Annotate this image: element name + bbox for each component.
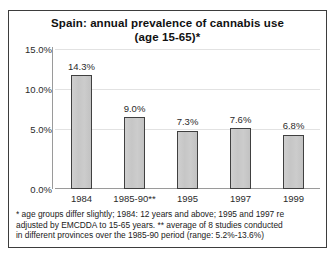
x-tick-label-1984: 1984 [55, 193, 108, 204]
bar-value-label-1999: 6.8% [267, 120, 320, 131]
bar-value-label-1997: 7.6% [214, 114, 267, 125]
bar-slot-1985-90: 9.0% [108, 49, 161, 189]
y-tick-label-0: 0.0% [9, 184, 52, 195]
bar-series: 14.3% 9.0% 7.3% 7.6% 6.8% [55, 49, 320, 189]
y-tick-label-5: 5.0% [9, 124, 52, 135]
chart-figure: Spain: annual prevalence of cannabis use… [8, 10, 327, 248]
x-tick-label-1997: 1997 [214, 193, 267, 204]
y-tick-label-15: 15.0% [9, 44, 52, 55]
bar-1984[interactable] [71, 75, 92, 189]
chart-title: Spain: annual prevalence of cannabis use… [9, 16, 326, 44]
bar-value-label-1985-90: 9.0% [108, 103, 161, 114]
bar-slot-1997: 7.6% [214, 49, 267, 189]
footnote-line-1: * age groups differ slightly; 1984: 12 y… [16, 209, 320, 220]
x-tick-label-1985-90: 1985-90** [108, 193, 161, 204]
x-tick-label-1995: 1995 [161, 193, 214, 204]
x-axis-tick-labels: 1984 1985-90** 1995 1997 1999 [55, 193, 320, 204]
bar-1995[interactable] [177, 131, 198, 189]
bar-slot-1984: 14.3% [55, 49, 108, 189]
bar-1997[interactable] [230, 128, 251, 189]
y-axis-tick-labels: 15.0% 10.0% 5.0% 0.0% [9, 47, 52, 205]
plot-wrapper: 15.0% 10.0% 5.0% 0.0% 14.3% 9.0% [9, 47, 328, 205]
y-axis-line [52, 47, 53, 189]
plot-area: 14.3% 9.0% 7.3% 7.6% 6.8% [55, 49, 320, 189]
chart-title-line-2: (age 15-65)* [9, 30, 326, 44]
footnote-line-3: in different provinces over the 1985-90 … [16, 230, 320, 241]
chart-footnote: * age groups differ slightly; 1984: 12 y… [16, 209, 320, 241]
y-tick-label-10: 10.0% [9, 84, 52, 95]
bar-1999[interactable] [283, 135, 304, 189]
bar-slot-1995: 7.3% [161, 49, 214, 189]
x-tick-label-1999: 1999 [267, 193, 320, 204]
footnote-line-2: adjusted by EMCDDA to 15-65 years. ** av… [16, 220, 320, 231]
chart-title-line-1: Spain: annual prevalence of cannabis use [9, 16, 326, 30]
bar-1985-90[interactable] [124, 117, 145, 189]
bar-value-label-1995: 7.3% [161, 116, 214, 127]
bar-slot-1999: 6.8% [267, 49, 320, 189]
bar-value-label-1984: 14.3% [55, 61, 108, 72]
